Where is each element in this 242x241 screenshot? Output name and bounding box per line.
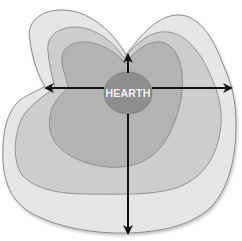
hearth-diffusion-diagram: HEARTH bbox=[0, 0, 242, 241]
hearth-label: HEARTH bbox=[106, 87, 151, 99]
